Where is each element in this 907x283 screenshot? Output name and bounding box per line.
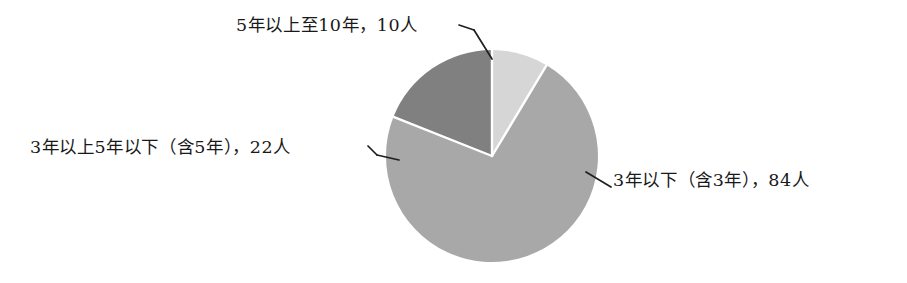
pie-label-3-years-or-less: 3年以下（含3年），84人 bbox=[613, 171, 809, 190]
pie-chart-figure: 5年以上至10年，10人 3年以上5年以下（含5年），22人 3年以下（含3年）… bbox=[0, 0, 907, 283]
pie-label-5-to-10-years: 5年以上至10年，10人 bbox=[236, 16, 418, 35]
pie-label-3-to-5-years: 3年以上5年以下（含5年），22人 bbox=[30, 138, 291, 157]
